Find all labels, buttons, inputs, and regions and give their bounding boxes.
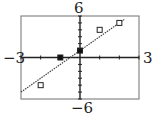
y-max-label: 6 bbox=[74, 1, 84, 16]
data-point bbox=[117, 20, 122, 25]
data-point bbox=[97, 27, 102, 32]
x-max-label: 3 bbox=[143, 51, 153, 66]
x-min-label: −3 bbox=[3, 51, 25, 66]
fit-line bbox=[21, 19, 124, 92]
data-point bbox=[58, 55, 63, 60]
data-point bbox=[78, 48, 83, 53]
data-point bbox=[38, 83, 43, 88]
y-min-label: −6 bbox=[71, 101, 93, 116]
